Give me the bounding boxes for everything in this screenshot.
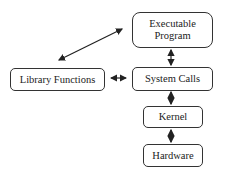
node-library-functions: Library Functions: [10, 68, 105, 91]
node-system-calls: System Calls: [132, 67, 213, 91]
node-executable-program: Executable Program: [132, 12, 213, 48]
node-label-line2: Program: [154, 30, 190, 42]
arrow-executable-library: [59, 29, 122, 60]
node-label: System Calls: [145, 73, 200, 85]
node-label-line1: Executable: [149, 18, 196, 30]
node-hardware: Hardware: [143, 144, 203, 167]
node-kernel: Kernel: [143, 106, 203, 128]
node-label: Library Functions: [20, 74, 96, 86]
node-label: Kernel: [159, 111, 188, 123]
node-label: Hardware: [152, 150, 193, 162]
